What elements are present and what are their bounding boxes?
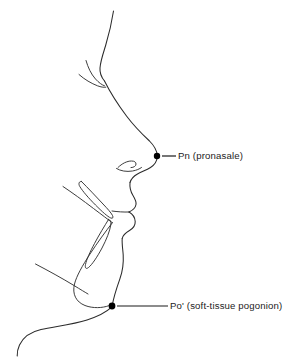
- symphysis-line: [74, 223, 113, 308]
- nostril-base-line: [117, 168, 142, 172]
- pogonion-label: Po' (soft-tissue pogonion): [170, 301, 282, 311]
- upper-lip-line: [129, 183, 136, 213]
- submental-neck-line: [17, 307, 111, 356]
- upper-incisor-root-line: [63, 187, 112, 223]
- lower-lip-line: [122, 212, 135, 239]
- chin-soft-tissue-line: [112, 239, 123, 306]
- pn-label: Pn (pronasale): [178, 151, 243, 161]
- pogonion-landmark-dot: [109, 303, 116, 310]
- profile-landmark-figure: Pn (pronasale) Po' (soft-tissue pogonion…: [0, 0, 305, 357]
- forehead-soft-tissue-line: [100, 11, 114, 81]
- interlabial-line: [112, 211, 129, 212]
- nasal-dorsum-line: [105, 81, 158, 155]
- nostril-curve-line: [118, 161, 136, 168]
- lower-incisor-line: [85, 220, 111, 269]
- mandibular-body-line: [36, 264, 89, 294]
- upper-incisor-line: [79, 181, 113, 218]
- nose-tip-columella-line: [130, 157, 157, 183]
- pn-landmark-dot: [154, 153, 160, 159]
